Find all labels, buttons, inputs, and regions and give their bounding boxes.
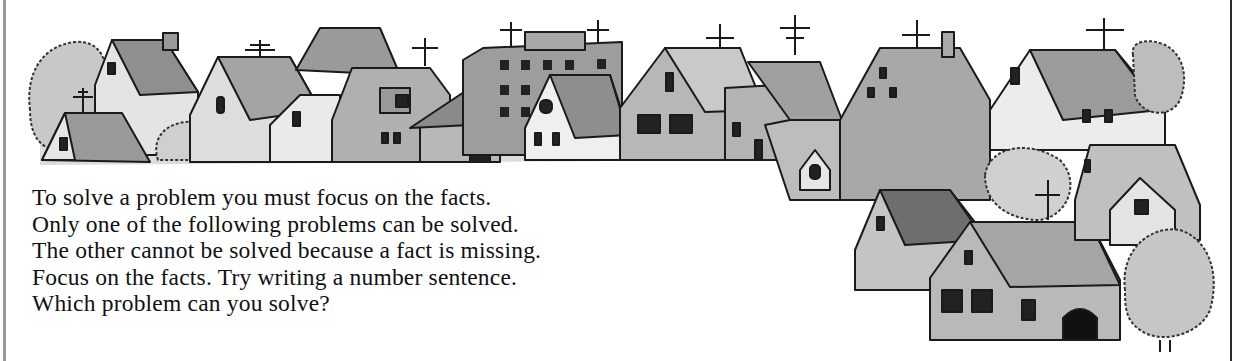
instruction-line: Only one of the following problems can b… bbox=[32, 211, 541, 238]
instruction-line: Which problem can you solve? bbox=[32, 290, 541, 317]
instructions-text: To solve a problem you must focus on the… bbox=[32, 184, 541, 317]
instruction-line: Focus on the facts. Try writing a number… bbox=[32, 264, 541, 291]
instruction-line: To solve a problem you must focus on the… bbox=[32, 184, 541, 211]
instruction-line: The other cannot be solved because a fac… bbox=[32, 237, 541, 264]
